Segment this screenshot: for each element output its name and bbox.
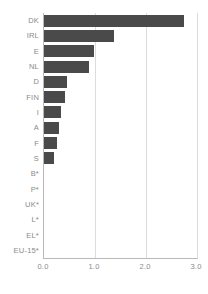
y-axis-tick-label: P* — [31, 185, 39, 194]
table-row — [44, 181, 197, 196]
y-axis-tick-label: E — [34, 47, 39, 56]
table-row — [44, 90, 197, 105]
bar[interactable] — [44, 106, 61, 118]
y-axis-tick: S — [0, 151, 39, 166]
table-row — [44, 59, 197, 74]
table-row — [44, 197, 197, 212]
bars-container — [44, 13, 197, 258]
y-axis-tick: D — [0, 74, 39, 89]
table-row — [44, 136, 197, 151]
y-axis-tick-label: EU-15* — [14, 246, 39, 255]
y-axis-tick-label: L* — [32, 215, 40, 224]
x-axis-tick-label: 0.0 — [37, 262, 48, 271]
y-axis-tick-label: IRL — [27, 31, 39, 40]
y-axis-tick: FIN — [0, 90, 39, 105]
bar[interactable] — [44, 45, 94, 57]
bar[interactable] — [44, 137, 57, 149]
table-row — [44, 74, 197, 89]
bar[interactable] — [44, 122, 59, 134]
x-axis-tick-label: 3.0 — [190, 262, 201, 271]
y-axis-tick-label: S — [34, 154, 39, 163]
y-axis-tick: IRL — [0, 28, 39, 43]
table-row — [44, 151, 197, 166]
table-row — [44, 28, 197, 43]
table-row — [44, 212, 197, 227]
y-axis-tick-label: DK — [28, 16, 39, 25]
y-axis-tick: E — [0, 44, 39, 59]
plot-area — [43, 13, 198, 259]
table-row — [44, 44, 197, 59]
bar[interactable] — [44, 152, 54, 164]
bar-chart: DK IRL E NL D FIN I A F S B* P* UK* L* E… — [0, 0, 208, 294]
y-axis-tick-label: A — [34, 123, 39, 132]
bar[interactable] — [44, 61, 89, 73]
y-axis-tick: P* — [0, 181, 39, 196]
y-axis-tick: EU-15* — [0, 243, 39, 258]
table-row — [44, 120, 197, 135]
y-axis-tick-label: B* — [31, 169, 39, 178]
y-axis-tick: NL — [0, 59, 39, 74]
y-axis-tick: UK* — [0, 197, 39, 212]
table-row — [44, 105, 197, 120]
y-axis-tick-label: F — [34, 139, 39, 148]
y-axis-tick-label: D — [33, 77, 39, 86]
y-axis-tick: A — [0, 120, 39, 135]
bar[interactable] — [44, 76, 67, 88]
y-axis-category-labels: DK IRL E NL D FIN I A F S B* P* UK* L* E… — [0, 13, 39, 258]
bar[interactable] — [44, 30, 114, 42]
table-row — [44, 166, 197, 181]
bar[interactable] — [44, 91, 65, 103]
bar[interactable] — [44, 15, 184, 27]
y-axis-tick-label: EL* — [26, 231, 39, 240]
y-axis-tick-label: I — [37, 108, 39, 117]
table-row — [44, 13, 197, 28]
y-axis-tick: DK — [0, 13, 39, 28]
y-axis-tick: I — [0, 105, 39, 120]
x-axis-tick-labels: 0.01.02.03.0 — [0, 262, 208, 278]
x-axis-tick-label: 2.0 — [139, 262, 150, 271]
y-axis-tick-label: UK* — [25, 200, 39, 209]
table-row — [44, 227, 197, 242]
y-axis-tick-label: NL — [29, 62, 39, 71]
x-axis-tick-label: 1.0 — [88, 262, 99, 271]
y-axis-tick: B* — [0, 166, 39, 181]
y-axis-tick: L* — [0, 212, 39, 227]
y-axis-tick-label: FIN — [26, 93, 39, 102]
y-axis-tick: EL* — [0, 227, 39, 242]
table-row — [44, 243, 197, 258]
y-axis-tick: F — [0, 136, 39, 151]
